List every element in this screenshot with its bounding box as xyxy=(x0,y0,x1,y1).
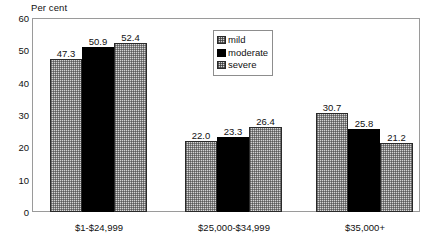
bar-moderate-1: 50.9 xyxy=(82,47,114,212)
legend: mild moderate severe xyxy=(213,30,273,76)
legend-item-moderate: moderate xyxy=(217,47,268,59)
y-tick-10: 10 xyxy=(3,174,29,185)
y-tick-20: 20 xyxy=(3,142,29,153)
y-tick-40: 40 xyxy=(3,77,29,88)
bar-severe-1: 52.4 xyxy=(114,43,147,212)
y-tick-50: 50 xyxy=(3,45,29,56)
bar-mild-1: 47.3 xyxy=(50,59,82,212)
legend-swatch-mild-icon xyxy=(217,36,226,44)
legend-swatch-severe-icon xyxy=(217,61,226,69)
x-tick-2: $35,000+ xyxy=(345,222,385,233)
y-axis-title: Per cent xyxy=(31,2,67,13)
x-tick-0: $1-$24,999 xyxy=(75,222,123,233)
bar-group-3: 30.7 25.8 21.2 xyxy=(316,18,414,212)
bar-value-label: 52.4 xyxy=(121,32,140,43)
legend-item-mild: mild xyxy=(217,34,268,46)
bar-value-label: 30.7 xyxy=(323,102,342,113)
bar-group-1: 47.3 50.9 52.4 xyxy=(50,18,148,212)
y-tick-60: 60 xyxy=(3,13,29,24)
bar-value-label: 21.2 xyxy=(387,132,406,143)
bar-value-label: 50.9 xyxy=(89,36,108,47)
legend-label-severe: severe xyxy=(228,60,257,70)
bar-moderate-3: 25.8 xyxy=(348,129,380,212)
x-axis-ticks: $1-$24,999 $25,000-$34,999 $35,000+ xyxy=(32,214,420,238)
bar-value-label: 47.3 xyxy=(57,48,76,59)
bar-value-label: 23.3 xyxy=(224,126,243,137)
legend-item-severe: severe xyxy=(217,59,268,71)
bar-moderate-2: 23.3 xyxy=(217,137,249,212)
bar-mild-3: 30.7 xyxy=(316,113,348,212)
bar-value-label: 22.0 xyxy=(192,130,211,141)
y-tick-0: 0 xyxy=(3,207,29,218)
y-tick-30: 30 xyxy=(3,110,29,121)
bar-mild-2: 22.0 xyxy=(185,141,217,212)
bar-severe-2: 26.4 xyxy=(249,127,282,212)
bar-value-label: 25.8 xyxy=(355,118,374,129)
y-axis-ticks: 60 50 40 30 20 10 0 xyxy=(0,18,29,212)
x-tick-1: $25,000-$34,999 xyxy=(198,222,270,233)
legend-swatch-moderate-icon xyxy=(217,49,226,57)
legend-label-mild: mild xyxy=(228,35,245,45)
bar-value-label: 26.4 xyxy=(256,116,275,127)
bar-chart: Per cent 60 50 40 30 20 10 0 47.3 50.9 5… xyxy=(0,0,432,248)
legend-label-moderate: moderate xyxy=(228,48,268,58)
bar-severe-3: 21.2 xyxy=(380,143,413,212)
